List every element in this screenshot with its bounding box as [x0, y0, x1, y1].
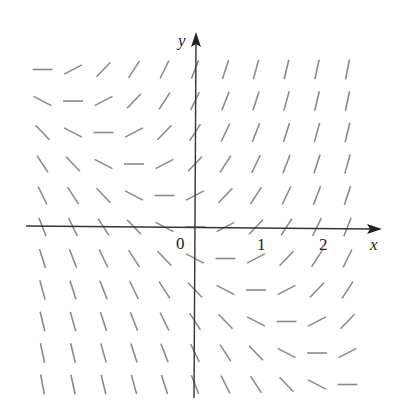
slope-segment: [70, 280, 76, 299]
slope-segment: [38, 186, 47, 204]
slope-segment: [37, 156, 48, 173]
slope-segment: [191, 344, 200, 362]
slope-segment: [95, 96, 113, 105]
slope-segment: [253, 60, 258, 79]
slope-segment: [97, 62, 111, 76]
slope-segment: [36, 125, 50, 139]
slope-segment: [315, 91, 320, 110]
slope-segment: [339, 348, 357, 357]
slope-segment: [217, 285, 235, 294]
slope-segment: [125, 128, 143, 137]
slope-segment: [281, 219, 292, 236]
slope-segment: [278, 348, 296, 357]
origin-label: 0: [176, 235, 185, 252]
slope-segment: [284, 60, 289, 79]
slope-segment: [40, 343, 44, 363]
slope-segment: [64, 65, 82, 74]
slope-segment: [221, 375, 230, 393]
y-axis: [194, 42, 196, 398]
slope-segment: [99, 249, 108, 267]
slope-segment: [283, 123, 289, 142]
x-axis-label: x: [370, 236, 378, 253]
slope-segment: [130, 281, 139, 299]
slope-segment: [64, 128, 82, 137]
slope-segment: [160, 60, 169, 78]
slope-segment: [34, 96, 52, 105]
slope-segment: [345, 123, 350, 142]
slope-segment: [160, 312, 169, 330]
slope-segment: [221, 123, 230, 141]
slope-segment: [125, 191, 143, 200]
slope-segment: [219, 314, 233, 328]
slope-segment: [247, 317, 265, 326]
slope-segment: [249, 346, 263, 360]
slope-segment: [278, 285, 296, 294]
slope-segment: [308, 317, 326, 326]
slope-segment: [308, 380, 326, 389]
slope-segment: [342, 282, 353, 299]
slope-segment: [71, 375, 75, 395]
y-axis-label: y: [178, 32, 186, 49]
slope-segment: [159, 282, 170, 299]
slope-segment: [130, 312, 137, 331]
slope-segment: [101, 375, 106, 394]
slope-segment: [69, 249, 76, 268]
x-tick-label-2: 2: [319, 236, 328, 253]
slope-segment: [346, 60, 350, 80]
slope-segment: [156, 159, 174, 168]
slope-segment: [251, 187, 262, 204]
slope-segment: [129, 250, 140, 267]
slope-segment: [310, 283, 324, 297]
slope-segment: [222, 92, 229, 111]
slope-segment: [158, 125, 172, 139]
slope-segment: [161, 344, 168, 363]
slope-segment: [345, 91, 349, 111]
slope-segment: [159, 93, 170, 110]
slope-segment: [70, 312, 75, 331]
slope-segment: [251, 376, 262, 393]
slope-segment: [68, 187, 79, 204]
slope-segment: [101, 343, 106, 362]
slope-segment: [191, 375, 198, 394]
slope-segment: [253, 91, 259, 110]
slope-segment: [249, 220, 263, 234]
slope-segment: [97, 188, 111, 202]
slope-segment: [313, 218, 322, 236]
slope-segment: [344, 218, 351, 237]
slope-field-plot: [0, 0, 401, 419]
slope-segment: [220, 156, 231, 173]
slope-segment: [158, 251, 172, 265]
slope-segment: [314, 154, 320, 173]
slope-segment: [345, 154, 350, 173]
slope-segment: [313, 186, 320, 205]
slope-segment: [95, 159, 113, 168]
x-tick-label-1: 1: [257, 236, 266, 253]
slope-segment: [100, 312, 106, 331]
slope-segment: [222, 60, 228, 79]
slope-segment: [280, 377, 294, 391]
slope-segment: [343, 249, 352, 267]
slope-segment: [41, 375, 45, 395]
slope-segment: [282, 186, 291, 204]
slope-segment: [247, 254, 265, 263]
slope-segment: [40, 312, 45, 331]
slope-segment: [280, 251, 294, 265]
slope-segment: [131, 375, 136, 394]
slope-segment: [314, 123, 319, 142]
slope-segment: [219, 188, 233, 202]
slope-segment: [100, 281, 107, 300]
slope-segment: [161, 375, 167, 394]
slope-segment: [127, 94, 141, 108]
slope-segment: [66, 157, 80, 171]
slope-segment: [40, 280, 45, 299]
slope-segment: [344, 186, 350, 205]
slope-segment: [252, 155, 261, 173]
slope-segment: [39, 249, 45, 268]
slope-segment: [71, 343, 76, 362]
slope-segment: [315, 60, 319, 80]
slope-segment: [220, 345, 231, 362]
slope-segment: [131, 343, 137, 362]
slope-segment: [191, 60, 198, 79]
slope-segment: [341, 314, 355, 328]
slope-segment: [39, 218, 46, 237]
